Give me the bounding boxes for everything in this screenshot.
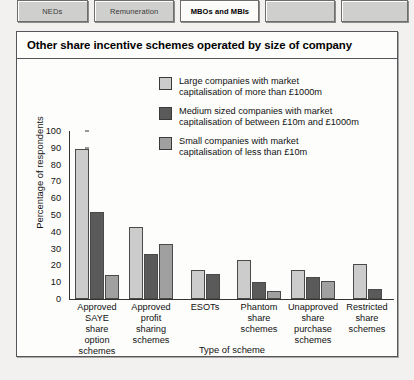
bar [237,260,251,299]
x-axis-category-line: share [233,313,285,324]
x-axis-category-line: sharing [125,324,177,335]
x-axis-category-line: share [287,313,339,324]
y-axis-tick-label: 100 [35,126,61,136]
tab-neds[interactable]: NEDs [17,0,88,22]
bar [129,227,143,299]
bar [191,270,205,299]
tab-label: NEDs [42,7,62,16]
bar [105,275,119,299]
bar-group [178,131,232,299]
bar [368,289,382,299]
bar-group [340,131,394,299]
y-axis-tick-label: 0 [35,294,61,304]
y-axis-tick-label: 90 [35,143,61,153]
x-axis-category-line: Restricted [341,302,393,313]
y-axis-tick-label: 20 [35,260,61,270]
y-axis-tick-label: 50 [35,210,61,220]
x-axis-category-line: ESOTs [179,302,231,313]
x-axis-category-line: schemes [341,324,393,335]
bar [144,254,158,299]
bar [252,282,266,299]
x-axis-category-line: share [71,324,123,335]
x-axis-category-line: Unapproved [287,302,339,313]
bar-group [286,131,340,299]
tab-strip: NEDs Remuneration MBOs and MBIs [0,0,414,26]
bar [321,281,335,299]
tab-mbos-and-mbis[interactable]: MBOs and MBIs [180,0,259,22]
y-axis-tick-label: 30 [35,244,61,254]
tab-label: MBOs and MBIs [191,7,249,16]
x-axis-category-line: SAYE [71,313,123,324]
x-axis-category-line: share [341,313,393,324]
x-axis-category-line: Approved [71,302,123,313]
y-axis-tick-label: 60 [35,193,61,203]
plot-area: Percentage of respondents 01020304050607… [17,59,397,357]
bar [306,277,320,299]
y-axis-tick-label: 10 [35,277,61,287]
y-axis-ticks: 0102030405060708090100 [37,131,65,299]
x-axis-title: Type of scheme [70,344,394,355]
bar [267,291,281,299]
bar-group [124,131,178,299]
tab-remuneration[interactable]: Remuneration [94,0,175,22]
tab-label: Remuneration [110,7,158,16]
bar [353,264,367,299]
x-axis-line [69,299,394,300]
chart-panel: Other share incentive schemes operated b… [16,31,398,357]
bar [159,244,173,299]
bar [206,274,220,299]
bar-group [70,131,124,299]
x-axis-category-line: schemes [233,324,285,335]
x-axis-category-line: Phantom [233,302,285,313]
bar [291,270,305,299]
bar-groups [70,131,394,299]
bar-group [232,131,286,299]
y-axis-tick-label: 70 [35,176,61,186]
page-title: Other share incentive schemes operated b… [27,39,352,51]
x-axis-category-line: purchase [287,324,339,335]
y-axis-tick-label: 40 [35,227,61,237]
tab-empty-1[interactable] [265,0,335,22]
x-axis-category-line: profit [125,313,177,324]
tab-empty-2[interactable] [341,0,408,22]
bar [75,149,89,299]
bar [90,212,104,299]
y-axis-tick-label: 80 [35,160,61,170]
chart-body: Large companies with marketcapitalisatio… [17,59,397,357]
panel-title-bar: Other share incentive schemes operated b… [17,32,397,59]
x-axis-category-line: Approved [125,302,177,313]
